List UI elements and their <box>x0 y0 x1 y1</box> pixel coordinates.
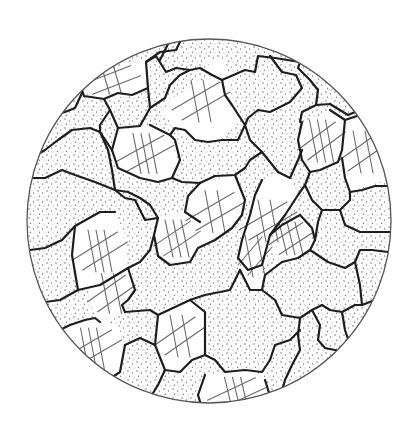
microstructure-figure <box>0 0 411 441</box>
field-of-view <box>0 0 411 441</box>
